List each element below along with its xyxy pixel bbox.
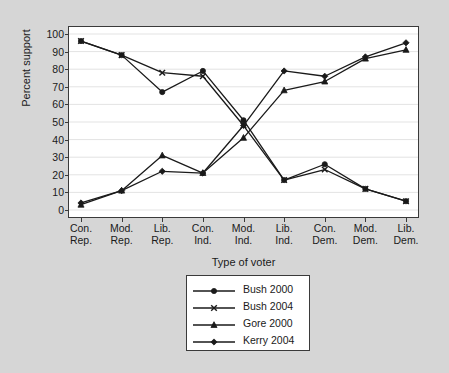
x-tick-mark: [284, 218, 285, 222]
diamond-marker: [159, 168, 165, 174]
legend-sample: [192, 317, 236, 329]
x-axis-tick-labels: Con.Rep.Mod.Rep.Lib.Rep.Con.Ind.Mod.Ind.…: [68, 222, 419, 256]
diamond-marker: [192, 336, 236, 348]
chart-figure: Percent support 0102030405060708090100 C…: [0, 0, 449, 373]
y-tick-label-80: 80: [52, 64, 64, 74]
plot-area: [68, 26, 419, 218]
y-tick-label-40: 40: [52, 135, 64, 145]
x-tick-label-line: Lib.: [378, 222, 434, 234]
y-axis-tick-labels: 0102030405060708090100: [30, 22, 64, 222]
legend: Bush 2000Bush 2004Gore 2000Kerry 2004: [186, 275, 310, 351]
triangle-marker: [403, 47, 409, 53]
legend-label: Kerry 2004: [236, 334, 294, 346]
circle-marker: [322, 162, 327, 167]
y-tick-label-0: 0: [58, 205, 64, 215]
x-axis-title: Type of voter: [68, 256, 419, 268]
x-tick-label-line: Dem.: [378, 234, 434, 246]
legend-label: Bush 2004: [236, 300, 293, 312]
x-tick-mark: [406, 218, 407, 222]
x-marker: [192, 302, 236, 314]
x-tick-mark: [203, 218, 204, 222]
y-tick-label-90: 90: [52, 47, 64, 57]
circle-marker: [160, 89, 165, 94]
y-tick-label-70: 70: [52, 82, 64, 92]
legend-item-bush-2000: Bush 2000: [187, 280, 309, 297]
legend-sample: [192, 334, 236, 346]
y-tick-label-10: 10: [52, 187, 64, 197]
legend-label: Bush 2000: [236, 283, 293, 295]
y-tick-label-100: 100: [46, 29, 64, 39]
plot-svg: [69, 27, 418, 217]
x-tick-mark: [365, 218, 366, 222]
legend-label: Gore 2000: [236, 317, 293, 329]
x-tick-mark: [162, 218, 163, 222]
circle-marker: [200, 68, 205, 73]
circle-marker: [211, 288, 216, 293]
diamond-marker: [322, 73, 328, 79]
y-tick-label-20: 20: [52, 170, 64, 180]
x-tick-mark: [244, 218, 245, 222]
triangle-marker: [192, 319, 236, 331]
legend-sample: [192, 283, 236, 295]
triangle-marker: [159, 152, 165, 158]
x-tick-mark: [122, 218, 123, 222]
diamond-marker: [403, 40, 409, 46]
series-bush-2000: [78, 38, 408, 203]
y-tick-label-60: 60: [52, 99, 64, 109]
x-tick-label-8: Lib.Dem.: [378, 222, 434, 246]
legend-sample: [192, 300, 236, 312]
y-tick-label-30: 30: [52, 152, 64, 162]
legend-item-kerry-2004: Kerry 2004: [187, 331, 309, 348]
x-tick-mark: [81, 218, 82, 222]
circle-marker: [192, 285, 236, 297]
x-tick-mark: [325, 218, 326, 222]
legend-item-gore-2000: Gore 2000: [187, 314, 309, 331]
y-tick-label-50: 50: [52, 117, 64, 127]
diamond-marker: [211, 338, 217, 344]
legend-item-bush-2004: Bush 2004: [187, 297, 309, 314]
series-kerry-2004: [78, 40, 409, 206]
